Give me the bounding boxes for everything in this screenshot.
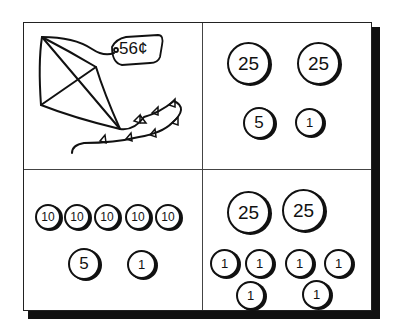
coin-nickel: 5 (243, 107, 275, 139)
coin-penny: 1 (324, 249, 353, 278)
coin-penny: 1 (127, 250, 156, 279)
coin-dime: 10 (155, 204, 181, 230)
coin-quarter: 25 (227, 42, 270, 85)
coin-dime: 10 (125, 204, 151, 230)
coin-penny: 1 (245, 249, 274, 278)
price-tag-label: 56¢ (119, 39, 147, 59)
coin-penny: 1 (210, 249, 239, 278)
coin-quarter: 25 (297, 42, 340, 85)
coin-quarter: 25 (227, 191, 270, 234)
quadrant-coins-b: 10 10 10 10 10 5 1 (24, 170, 202, 312)
coin-penny: 1 (285, 249, 314, 278)
quadrant-coins-a: 25 25 5 1 (203, 23, 373, 169)
coin-dime: 10 (64, 204, 90, 230)
coin-quarter: 25 (282, 189, 325, 232)
coin-penny: 1 (295, 108, 324, 137)
quadrant-kite: 56¢ (24, 23, 202, 169)
coin-dime: 10 (35, 204, 61, 230)
coin-penny: 1 (302, 280, 331, 309)
coin-dime: 10 (94, 204, 120, 230)
diagram-frame: 56¢ 25 25 5 1 10 10 10 10 10 5 1 25 25 1… (23, 22, 372, 311)
coin-nickel: 5 (68, 248, 100, 280)
quadrant-coins-c: 25 25 1 1 1 1 1 1 (203, 170, 373, 312)
coin-penny: 1 (236, 281, 265, 310)
kite-icon (24, 23, 202, 169)
